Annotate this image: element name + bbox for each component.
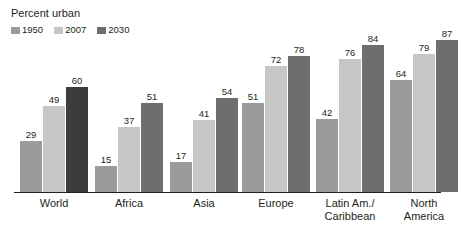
bar-value-label: 78 xyxy=(284,45,314,55)
bar-2030 xyxy=(362,45,384,192)
bar-2030 xyxy=(436,40,458,192)
bar-value-label: 84 xyxy=(358,34,388,44)
bar-1950 xyxy=(242,103,264,192)
bar-value-label: 17 xyxy=(166,151,196,161)
group-label: World xyxy=(20,197,88,210)
bar-slot: 60 xyxy=(66,32,88,192)
bar-group: 294960 xyxy=(20,32,88,192)
bar-slot: 84 xyxy=(362,32,384,192)
bar-2030 xyxy=(66,87,88,192)
bar-value-label: 64 xyxy=(386,69,416,79)
bar-value-label: 72 xyxy=(261,55,291,65)
bar-2030 xyxy=(216,98,238,192)
bar-2007 xyxy=(193,120,215,192)
bar-2007 xyxy=(413,54,435,192)
bar-slot: 49 xyxy=(43,32,65,192)
bar-group: 174154 xyxy=(170,32,238,192)
bar-value-label: 60 xyxy=(62,76,92,86)
bar-1950 xyxy=(316,119,338,192)
bar-slot: 87 xyxy=(436,32,458,192)
bar-1950 xyxy=(95,166,117,192)
bar-1950 xyxy=(20,141,42,192)
bar-value-label: 29 xyxy=(16,130,46,140)
x-axis-line xyxy=(14,192,441,193)
bar-value-label: 15 xyxy=(91,155,121,165)
bar-1950 xyxy=(170,162,192,192)
bar-value-label: 79 xyxy=(409,43,439,53)
bar-slot: 78 xyxy=(288,32,310,192)
bar-2030 xyxy=(288,56,310,192)
bar-value-label: 87 xyxy=(432,29,462,39)
group-label: Latin Am./ Caribbean xyxy=(316,197,384,222)
bar-slot: 54 xyxy=(216,32,238,192)
bar-group: 647987 xyxy=(390,32,458,192)
bar-slot: 15 xyxy=(95,32,117,192)
bar-slot: 41 xyxy=(193,32,215,192)
bar-slot: 79 xyxy=(413,32,435,192)
bar-value-label: 51 xyxy=(137,92,167,102)
bar-2030 xyxy=(141,103,163,192)
bar-value-label: 41 xyxy=(189,109,219,119)
bar-value-label: 42 xyxy=(312,108,342,118)
bar-2007 xyxy=(118,127,140,192)
bar-2007 xyxy=(265,66,287,192)
bar-group: 517278 xyxy=(242,32,310,192)
group-label: Asia xyxy=(170,197,238,210)
bar-group: 427684 xyxy=(316,32,384,192)
bar-slot: 76 xyxy=(339,32,361,192)
bar-slot: 29 xyxy=(20,32,42,192)
bar-value-label: 49 xyxy=(39,95,69,105)
bar-slot: 37 xyxy=(118,32,140,192)
bar-1950 xyxy=(390,80,412,192)
bar-slot: 72 xyxy=(265,32,287,192)
bar-value-label: 51 xyxy=(238,92,268,102)
bar-2007 xyxy=(339,59,361,192)
group-label: North America xyxy=(390,197,458,222)
group-label: Africa xyxy=(95,197,163,210)
group-label: Europe xyxy=(242,197,310,210)
bar-2007 xyxy=(43,106,65,192)
bar-value-label: 37 xyxy=(114,116,144,126)
bar-slot: 64 xyxy=(390,32,412,192)
bar-slot: 51 xyxy=(141,32,163,192)
bar-value-label: 76 xyxy=(335,48,365,58)
bar-group: 153751 xyxy=(95,32,163,192)
